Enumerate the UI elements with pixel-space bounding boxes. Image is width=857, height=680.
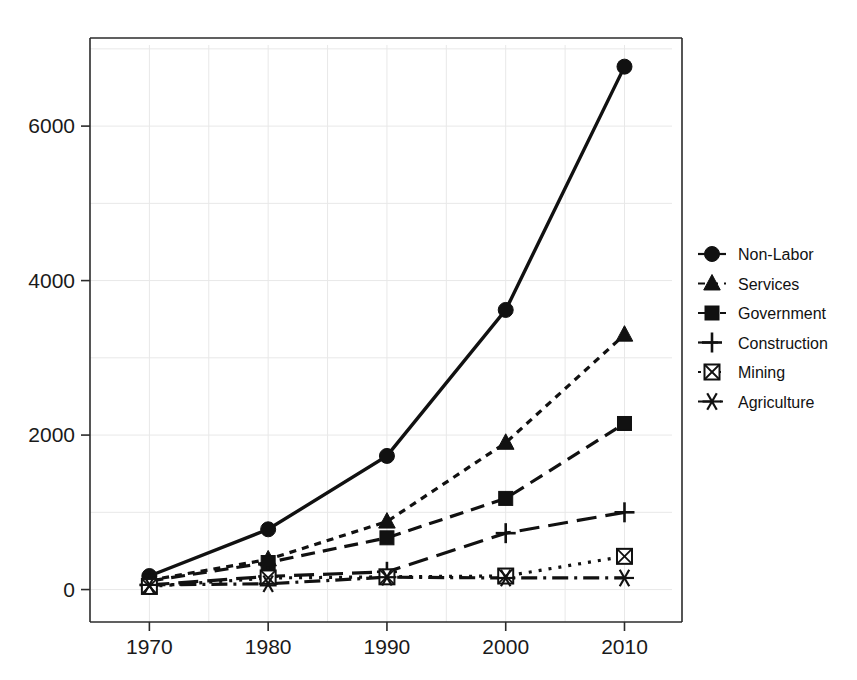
legend-marker-filled-square — [705, 306, 719, 320]
data-point-marker — [261, 522, 276, 537]
y-tick-label: 4000 — [28, 269, 75, 292]
legend-item-mining[interactable]: Mining — [698, 364, 785, 381]
legend-item-services[interactable]: Services — [698, 275, 799, 293]
legend-label: Government — [738, 305, 827, 322]
legend-label: Construction — [738, 335, 828, 352]
legend-label: Mining — [738, 364, 785, 381]
legend-marker-filled-circle — [705, 247, 720, 262]
y-tick-label: 2000 — [28, 423, 75, 446]
x-tick-label: 2010 — [601, 635, 648, 658]
data-point-marker — [617, 416, 631, 430]
legend-item-government[interactable]: Government — [698, 305, 827, 322]
legend-label: Services — [738, 276, 799, 293]
line-chart: 0200040006000 19701980199020002010 Non-L… — [0, 0, 857, 680]
data-point-marker — [617, 59, 632, 74]
legend-item-agriculture[interactable]: Agriculture — [698, 393, 815, 410]
y-tick-label: 0 — [63, 578, 75, 601]
data-point-marker — [379, 448, 394, 463]
data-point-marker — [380, 531, 394, 545]
x-tick-label: 1990 — [364, 635, 411, 658]
chart-canvas: 0200040006000 19701980199020002010 Non-L… — [0, 0, 857, 680]
legend-label: Non-Labor — [738, 246, 814, 263]
y-tick-label: 6000 — [28, 114, 75, 137]
x-tick-label: 1980 — [245, 635, 292, 658]
x-tick-label: 1970 — [126, 635, 173, 658]
legend-label: Agriculture — [738, 394, 815, 411]
x-tick-label: 2000 — [482, 635, 529, 658]
legend-item-non-labor[interactable]: Non-Labor — [698, 246, 814, 263]
data-point-marker — [498, 302, 513, 317]
data-point-marker — [499, 491, 513, 505]
